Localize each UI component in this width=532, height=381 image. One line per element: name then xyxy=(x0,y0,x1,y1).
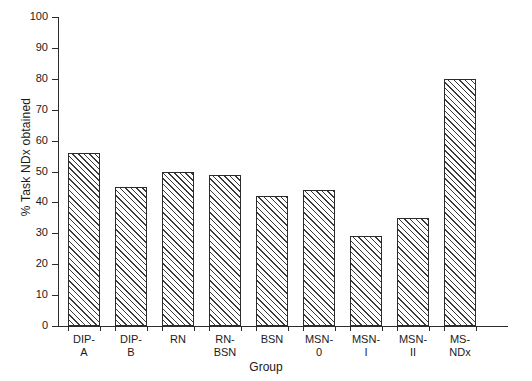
bar xyxy=(209,175,241,326)
x-tick-mark xyxy=(476,326,477,331)
plot-area xyxy=(58,17,508,326)
x-tick-label-line1: MS- xyxy=(430,333,490,346)
x-tick-mark xyxy=(115,326,116,331)
y-tick-label: 40 xyxy=(8,196,48,207)
y-tick-label-text: 40 xyxy=(14,196,48,207)
y-tick-label-text: 60 xyxy=(14,135,48,146)
y-tick-label-text: 0 xyxy=(14,320,48,331)
x-tick-mark xyxy=(100,326,101,331)
x-tick-mark xyxy=(194,326,195,331)
x-tick-label-line2: B xyxy=(101,346,161,359)
bar xyxy=(115,187,147,326)
x-tick-mark xyxy=(444,326,445,331)
x-tick-mark xyxy=(350,326,351,331)
y-tick-label: 10 xyxy=(8,289,48,300)
bar xyxy=(162,172,194,327)
x-tick-label-line2: BSN xyxy=(195,346,255,359)
bar-chart: % Task NDx obtained 01020304050607080901… xyxy=(0,0,532,381)
bar xyxy=(350,236,382,326)
x-axis-title: Group xyxy=(0,360,532,374)
y-tick-label: 70 xyxy=(8,104,48,115)
x-tick-mark xyxy=(209,326,210,331)
x-tick-mark xyxy=(162,326,163,331)
y-tick-label-text: 90 xyxy=(14,42,48,53)
x-tick-mark xyxy=(288,326,289,331)
x-tick-mark xyxy=(429,326,430,331)
y-tick-label: 80 xyxy=(8,73,48,84)
y-tick-label-text: 100 xyxy=(14,11,48,22)
x-tick-label-line2: NDx xyxy=(430,346,490,359)
y-tick-label-text: 10 xyxy=(14,289,48,300)
y-tick-label: 0 xyxy=(8,320,48,331)
y-tick-label-text: 30 xyxy=(14,227,48,238)
bar xyxy=(256,196,288,326)
y-tick-label: 20 xyxy=(8,258,48,269)
x-axis-line xyxy=(58,326,508,327)
bar xyxy=(68,153,100,326)
y-tick-label-text: 80 xyxy=(14,73,48,84)
bar xyxy=(303,190,335,326)
y-tick-label: 60 xyxy=(8,135,48,146)
x-tick-mark xyxy=(303,326,304,331)
y-tick-label: 100 xyxy=(8,11,48,22)
x-tick-mark xyxy=(256,326,257,331)
x-tick-mark xyxy=(68,326,69,331)
x-tick-mark xyxy=(241,326,242,331)
bar xyxy=(444,79,476,326)
x-tick-mark xyxy=(382,326,383,331)
y-tick-label: 30 xyxy=(8,227,48,238)
y-tick-label-text: 20 xyxy=(14,258,48,269)
y-tick-label: 50 xyxy=(8,166,48,177)
x-tick-mark xyxy=(397,326,398,331)
bar xyxy=(397,218,429,326)
x-tick-label: MS-NDx xyxy=(430,333,490,359)
y-tick-label-text: 50 xyxy=(14,166,48,177)
x-tick-mark xyxy=(147,326,148,331)
y-tick-label: 90 xyxy=(8,42,48,53)
y-tick-label-text: 70 xyxy=(14,104,48,115)
x-tick-mark xyxy=(335,326,336,331)
